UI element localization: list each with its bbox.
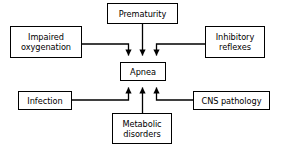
edge-infection-apnea xyxy=(72,88,129,101)
node-metabolic-disorders: Metabolic disorders xyxy=(112,113,172,144)
node-infection: Infection xyxy=(18,91,72,110)
node-apnea-label: Apnea xyxy=(130,67,156,77)
node-cns-pathology: CNS pathology xyxy=(193,91,270,110)
node-prematurity-label: Prematurity xyxy=(119,9,167,19)
node-cns-pathology-label: CNS pathology xyxy=(202,96,262,106)
edge-inhibitory-reflexes-apnea xyxy=(157,44,206,56)
edge-cns-pathology-apnea xyxy=(157,88,194,101)
node-metabolic-disorders-label: Metabolic disorders xyxy=(122,119,161,139)
edge-impaired-oxygenation-apnea xyxy=(82,44,129,56)
node-impaired-oxygenation: Impaired oxygenation xyxy=(10,26,82,58)
node-impaired-oxygenation-label: Impaired oxygenation xyxy=(21,32,71,52)
node-apnea: Apnea xyxy=(120,62,166,81)
apnea-causes-diagram: Prematurity Impaired oxygenation Inhibit… xyxy=(0,0,286,151)
node-inhibitory-reflexes: Inhibitory reflexes xyxy=(205,26,265,58)
node-infection-label: Infection xyxy=(27,96,62,106)
node-prematurity: Prematurity xyxy=(107,3,178,24)
node-inhibitory-reflexes-label: Inhibitory reflexes xyxy=(216,32,254,52)
